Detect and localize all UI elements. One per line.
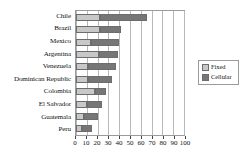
bar-segment-cellular [88,76,112,83]
legend-item: Fixed [202,64,236,71]
axis-tick-label: 40 [116,140,123,147]
bar-row [76,11,184,23]
axis-tick-label: 60 [138,140,145,147]
legend-label: Fixed [211,64,226,70]
bar-chart: ChileBrazilMexicoArgentinaVenezuelaDomin… [0,0,243,162]
gridline [184,11,185,135]
axis-tick-label: 10 [83,140,90,147]
bar-segment-fixed [76,101,87,108]
legend-swatch-icon [202,74,209,81]
legend-label: Cellular [211,74,232,80]
legend-swatch-icon [202,64,209,71]
bar-row [76,98,184,110]
category-label: Dominican Republic [0,73,73,86]
category-label: El Salvador [0,98,73,111]
bar-segment-cellular [95,88,106,95]
value-axis: 0102030405060708090100 [75,136,185,158]
category-label: Venezuela [0,60,73,73]
bar-segment-fixed [76,39,91,46]
bar-segment-cellular [82,125,92,132]
chart-legend: FixedCellular [198,60,239,85]
category-label: Colombia [0,86,73,99]
axis-tick-label: 80 [160,140,167,147]
category-label: Argentina [0,48,73,61]
bar-segment-fixed [76,113,84,120]
bar-segment-cellular [87,101,102,108]
bar-segment-fixed [76,63,88,70]
bar-segment-fixed [76,51,99,58]
category-label: Mexico [0,35,73,48]
category-label: Peru [0,123,73,136]
axis-tick-label: 20 [94,140,101,147]
category-label: Chile [0,10,73,23]
bar-segment-cellular [88,63,116,70]
bar-row [76,73,184,85]
bar-series-group [76,11,184,135]
axis-tick-label: 70 [149,140,156,147]
axis-tick-label: 90 [171,140,178,147]
bar-row [76,23,184,35]
bar-segment-fixed [76,76,88,83]
category-axis: ChileBrazilMexicoArgentinaVenezuelaDomin… [0,10,73,136]
bar-segment-cellular [91,39,119,46]
axis-tick-label: 50 [127,140,134,147]
bar-segment-cellular [100,14,148,21]
bar-row [76,36,184,48]
bar-row [76,61,184,73]
legend-item: Cellular [202,74,236,81]
plot-area [75,10,185,136]
bar-segment-fixed [76,88,95,95]
bar-segment-fixed [76,26,100,33]
axis-tick-label: 0 [73,140,77,147]
category-label: Brazil [0,23,73,36]
category-label: Guatemala [0,111,73,124]
bar-row [76,48,184,60]
bar-segment-cellular [100,26,122,33]
bar-segment-cellular [99,51,118,58]
bar-row [76,85,184,97]
bar-segment-cellular [84,113,98,120]
bar-segment-fixed [76,14,100,21]
bar-row [76,123,184,135]
axis-tick-label: 100 [180,140,191,147]
bar-row [76,110,184,122]
axis-tick-label: 30 [105,140,112,147]
